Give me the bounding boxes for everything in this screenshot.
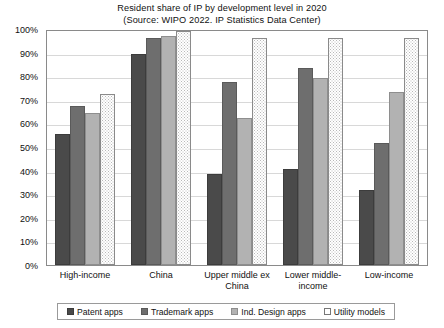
bar[interactable] [146,38,161,265]
bar[interactable] [252,38,267,265]
bar[interactable] [222,82,237,265]
x-axis-category-label: Lower middle-income [275,270,351,298]
y-axis-tick-label: 70% [0,96,42,106]
y-axis-tick-label: 20% [0,214,42,224]
bar[interactable] [389,92,404,265]
page-title: Resident share of IP by development leve… [0,2,444,14]
y-axis-tick-label: 0% [0,261,42,271]
bar[interactable] [313,78,328,265]
bar-group [199,31,275,265]
x-axis-category-label: Low-income [351,270,427,298]
bar[interactable] [55,134,70,265]
bar[interactable] [176,31,191,265]
y-axis-tick-label: 60% [0,119,42,129]
bar-group [123,31,199,265]
legend-item-label: Trademark apps [151,307,213,317]
y-axis-tick-label: 50% [0,143,42,153]
bar[interactable] [100,94,115,265]
y-axis-tick-label: 10% [0,237,42,247]
bar-groups [47,31,427,265]
legend-item[interactable]: Utility models [324,307,385,317]
chart-legend: Patent appsTrademark appsInd. Design app… [57,303,395,320]
bar[interactable] [283,169,298,265]
bar[interactable] [374,143,389,265]
bar-group [351,31,427,265]
legend-swatch-icon [67,308,74,315]
y-axis: 100%90%80%70%60%50%40%30%20%10%0% [0,30,42,266]
legend-swatch-icon [324,308,331,315]
x-axis-category-label: High-income [47,270,123,298]
x-axis-category-label: China [123,270,199,298]
legend-item[interactable]: Ind. Design apps [231,307,306,317]
bar[interactable] [328,38,343,265]
bar[interactable] [237,118,252,265]
bar[interactable] [131,54,146,265]
legend-item-label: Patent apps [77,307,123,317]
bar[interactable] [70,106,85,265]
y-axis-tick-label: 90% [0,49,42,59]
y-axis-tick-label: 80% [0,72,42,82]
x-axis-category-label: Upper middle ex China [199,270,275,298]
bar[interactable] [161,36,176,265]
bar[interactable] [207,174,222,265]
bar-group [275,31,351,265]
chart-subtitle: (Source: WIPO 2022. IP Statistics Data C… [0,14,444,26]
y-axis-tick-label: 100% [0,25,42,35]
bar-group [47,31,123,265]
y-axis-tick-label: 30% [0,190,42,200]
legend-swatch-icon [141,308,148,315]
bar[interactable] [404,38,419,265]
legend-item-label: Utility models [334,307,385,317]
x-axis: High-incomeChinaUpper middle ex ChinaLow… [47,270,427,298]
legend-item[interactable]: Patent apps [67,307,123,317]
bar[interactable] [85,113,100,265]
bar-chart: Resident share of IP by development leve… [0,0,444,328]
chart-title-block: Resident share of IP by development leve… [0,2,444,26]
legend-item-label: Ind. Design apps [241,307,306,317]
legend-item[interactable]: Trademark apps [141,307,213,317]
y-axis-tick-label: 40% [0,167,42,177]
bar[interactable] [359,190,374,265]
legend-swatch-icon [231,308,238,315]
bar[interactable] [298,68,313,265]
